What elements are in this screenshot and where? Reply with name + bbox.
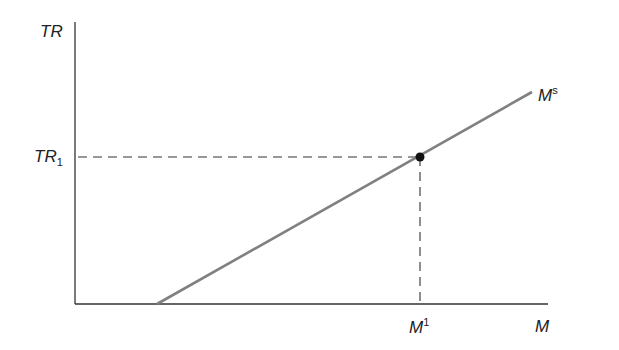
ms-label: Ms bbox=[538, 84, 558, 106]
money-supply-line bbox=[157, 92, 532, 304]
y-axis-label: TR bbox=[40, 22, 63, 42]
equilibrium-point bbox=[416, 153, 425, 162]
m1-label: M1 bbox=[409, 316, 429, 338]
x-axis-label: M bbox=[535, 317, 549, 337]
tr1-label: TR1 bbox=[34, 147, 63, 168]
chart-canvas bbox=[0, 0, 619, 350]
